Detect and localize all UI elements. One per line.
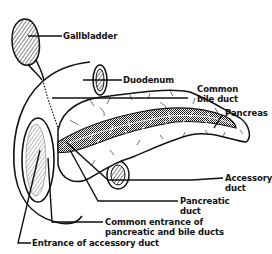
label-pancreatic-duct-line1: Pancreatic bbox=[180, 196, 230, 206]
pancreas bbox=[58, 90, 249, 181]
label-duodenum: Duodenum bbox=[123, 75, 174, 85]
label-common-entrance-line2: pancreatic and bile ducts bbox=[105, 227, 224, 237]
label-common-entrance-line1: Common entrance of bbox=[105, 217, 203, 227]
label-accessory-duct-line2: duct bbox=[225, 183, 246, 193]
gallbladder bbox=[12, 19, 44, 80]
label-common-bile-duct-line2: bile duct bbox=[197, 94, 238, 104]
pancreas-diagram bbox=[0, 0, 272, 254]
label-pancreatic-duct-line2: duct bbox=[180, 206, 201, 216]
label-gallbladder: Gallbladder bbox=[63, 31, 117, 41]
label-pancreas: Pancreas bbox=[225, 108, 268, 118]
label-entrance-accessory-duct: Entrance of accessory duct bbox=[32, 238, 159, 248]
label-common-bile-duct-line1: Common bbox=[197, 84, 238, 94]
label-accessory-duct-line1: Accessory bbox=[225, 173, 272, 183]
